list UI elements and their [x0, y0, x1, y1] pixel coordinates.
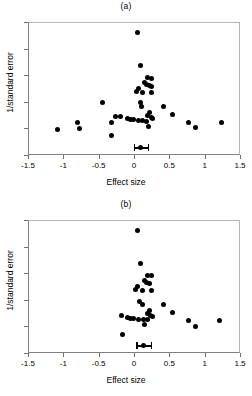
data-point	[134, 89, 139, 94]
data-point	[170, 112, 175, 117]
panel-b-xtick-0	[134, 353, 135, 357]
panel-b: (b) 1/standard error 0 2 4 6 8 10 -1.5 -…	[0, 198, 252, 396]
panel-b-xtick-label-1: 1	[185, 359, 225, 368]
panel-a-xtick-0.5	[169, 155, 170, 159]
panel-a-error-bar-cap-left	[134, 144, 135, 151]
panel-a-xtick-label--0.5: -0.5	[79, 161, 119, 170]
data-point	[133, 287, 138, 292]
data-point	[109, 133, 114, 138]
panel-a-xtick-1.5	[240, 155, 241, 159]
panel-b-xtick--0.5	[99, 353, 100, 357]
panel-b-xtick-1.5	[240, 353, 241, 357]
panel-a-xtick--1	[63, 155, 64, 159]
data-point	[75, 120, 80, 125]
panel-b-xaxis-label: Effect size	[0, 375, 252, 385]
panel-a-yaxis-label-wrap: 1/standard error	[0, 0, 14, 170]
panel-b-xtick-label--0.5: -0.5	[79, 359, 119, 368]
data-point	[139, 104, 144, 109]
panel-b-error-bar-cap-right	[151, 342, 152, 349]
data-point	[149, 76, 154, 81]
data-point	[119, 313, 124, 318]
panel-a-xtick--1.5	[28, 155, 29, 159]
panel-b-yaxis-label-wrap: 1/standard error	[0, 198, 14, 368]
data-point	[161, 302, 166, 307]
data-point	[135, 30, 140, 35]
data-point	[149, 288, 154, 293]
data-point	[161, 104, 166, 109]
panel-a-error-bar-cap-right	[148, 144, 149, 151]
panel-b-yaxis-label: 1/standard error	[6, 231, 15, 331]
panel-a-xtick--0.5	[99, 155, 100, 159]
data-point	[140, 302, 145, 307]
panel-a-summary-error-bar	[134, 144, 150, 151]
data-point	[138, 63, 143, 68]
data-point	[135, 228, 140, 233]
panel-b-error-bar-center-dot	[141, 343, 146, 348]
panel-b-error-bar-cap-left	[136, 342, 137, 349]
data-point	[186, 120, 191, 125]
data-point	[193, 125, 198, 130]
panel-b-summary-error-bar	[136, 342, 152, 349]
panel-a-xtick-1	[205, 155, 206, 159]
funnel-plot-figure: (a) 1/standard error 0 2 4 6 8 10 -1.5 -…	[0, 0, 252, 396]
data-point	[55, 127, 60, 132]
data-point	[219, 120, 224, 125]
data-point	[146, 124, 151, 129]
panel-b-plot-area	[28, 220, 240, 353]
data-point	[77, 126, 82, 131]
panel-b-xtick--1	[63, 353, 64, 357]
panel-b-xtick-label-0: 0	[114, 359, 154, 368]
data-point	[217, 318, 222, 323]
panel-a-xtick-label--1: -1	[43, 161, 83, 170]
data-point	[140, 288, 145, 293]
panel-b-xtick-label--1: -1	[43, 359, 83, 368]
panel-a-xtick-label-1: 1	[185, 161, 225, 170]
panel-a: (a) 1/standard error 0 2 4 6 8 10 -1.5 -…	[0, 0, 252, 198]
data-point	[142, 322, 147, 327]
data-point	[150, 314, 155, 319]
panel-a-yaxis-label: 1/standard error	[6, 33, 15, 133]
panel-a-plot-area	[28, 22, 240, 155]
data-point	[149, 90, 154, 95]
data-point	[170, 310, 175, 315]
data-point	[186, 318, 191, 323]
panel-a-xtick-label--1.5: -1.5	[8, 161, 48, 170]
data-point	[118, 114, 123, 119]
panel-a-title: (a)	[0, 1, 252, 12]
panel-a-xaxis-label: Effect size	[0, 177, 252, 187]
data-point	[149, 273, 154, 278]
panel-b-xtick-label-0.5: 0.5	[149, 359, 189, 368]
data-point	[147, 281, 152, 286]
data-point	[109, 120, 114, 125]
data-point	[193, 324, 198, 329]
panel-a-xtick-label-0.5: 0.5	[149, 161, 189, 170]
data-point	[100, 100, 105, 105]
panel-a-xtick-label-0: 0	[114, 161, 154, 170]
data-point	[138, 261, 143, 266]
data-point	[149, 84, 154, 89]
data-point	[140, 90, 145, 95]
data-point	[120, 332, 125, 337]
panel-a-error-bar-center-dot	[138, 145, 143, 150]
panel-b-xtick-1	[205, 353, 206, 357]
data-point	[150, 116, 155, 121]
panel-b-title: (b)	[0, 199, 252, 210]
panel-b-xtick-label-1.5: 1.5	[220, 359, 252, 368]
panel-a-xtick-label-1.5: 1.5	[220, 161, 252, 170]
panel-a-xtick-0	[134, 155, 135, 159]
panel-b-xtick-label--1.5: -1.5	[8, 359, 48, 368]
panel-b-xtick-0.5	[169, 353, 170, 357]
panel-b-xtick--1.5	[28, 353, 29, 357]
data-point	[144, 119, 149, 124]
